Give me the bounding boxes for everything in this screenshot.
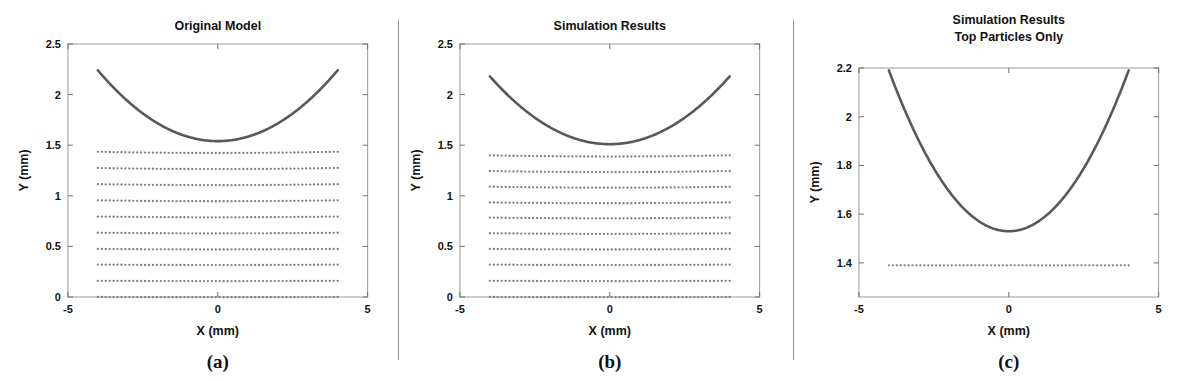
- particle-dot: [555, 186, 557, 188]
- particle-dot: [720, 186, 722, 188]
- particle-dot: [712, 232, 714, 234]
- particle-dot: [230, 296, 232, 298]
- particle-dot: [681, 280, 683, 282]
- particle-dot: [520, 202, 522, 204]
- particle-dot: [900, 264, 902, 266]
- particle-dot: [242, 280, 244, 282]
- particle-dot: [657, 280, 659, 282]
- particle-dot: [673, 186, 675, 188]
- particle-dot: [915, 264, 917, 266]
- particle-dot: [716, 154, 718, 156]
- particle-dot: [536, 171, 538, 173]
- particle-dot: [708, 280, 710, 282]
- particle-dot: [258, 152, 260, 154]
- particle-dot: [587, 280, 589, 282]
- particle-dot: [555, 202, 557, 204]
- particle-dot: [321, 296, 323, 298]
- particle-dot: [175, 168, 177, 170]
- particle-dot: [634, 186, 636, 188]
- particle-dot: [136, 167, 138, 169]
- particle-dot: [708, 264, 710, 266]
- particle-dot: [262, 296, 264, 298]
- particle-dot: [642, 296, 644, 298]
- particle-dot: [337, 232, 339, 234]
- particle-dot: [697, 186, 699, 188]
- particle-dot: [109, 296, 111, 298]
- particle-dot: [317, 232, 319, 234]
- particle-dot: [512, 280, 514, 282]
- particle-dot: [677, 186, 679, 188]
- particle-dot: [693, 248, 695, 250]
- particle-dot: [171, 296, 173, 298]
- particle-dot: [689, 296, 691, 298]
- particle-dot: [543, 186, 545, 188]
- particle-dot: [136, 248, 138, 250]
- particle-dot: [124, 280, 126, 282]
- particle-dot: [579, 217, 581, 219]
- particle-dot: [325, 199, 327, 201]
- particle-dot: [591, 264, 593, 266]
- particle-dot: [128, 167, 130, 169]
- particle-dot: [226, 296, 228, 298]
- particle-dot: [1069, 264, 1071, 266]
- particle-dot: [657, 171, 659, 173]
- particle-dot: [539, 186, 541, 188]
- particle-dot: [591, 248, 593, 250]
- particle-dot: [583, 264, 585, 266]
- particle-dot: [547, 202, 549, 204]
- particle-dot: [724, 296, 726, 298]
- particle-dot: [669, 155, 671, 157]
- particle-dot: [669, 264, 671, 266]
- particle-dot: [724, 232, 726, 234]
- particle-dot: [317, 280, 319, 282]
- particle-dot: [500, 186, 502, 188]
- particle-dot: [673, 248, 675, 250]
- particle-dot: [112, 151, 114, 153]
- particle-bed: [97, 151, 339, 299]
- y-tick-label: 2.5: [437, 38, 452, 50]
- particle-dot: [646, 248, 648, 250]
- particle-dot: [1088, 264, 1090, 266]
- particle-dot: [689, 155, 691, 157]
- particle-dot: [642, 155, 644, 157]
- particle-dot: [285, 151, 287, 153]
- particle-dot: [333, 263, 335, 265]
- particle-dot: [606, 171, 608, 173]
- particle-dot: [705, 217, 707, 219]
- particle-dot: [148, 296, 150, 298]
- particle-dot: [109, 151, 111, 153]
- particle-dot: [167, 232, 169, 234]
- particle-dot: [598, 233, 600, 235]
- particle-dot: [152, 184, 154, 186]
- particle-dot: [289, 168, 291, 170]
- particle-dot: [136, 200, 138, 202]
- particle-dot: [594, 187, 596, 189]
- particle-dot: [649, 280, 651, 282]
- particle-dot: [685, 296, 687, 298]
- particle-dot: [532, 186, 534, 188]
- particle-dot: [148, 151, 150, 153]
- particle-dot: [258, 216, 260, 218]
- particle-dot: [594, 264, 596, 266]
- particle-dot: [136, 151, 138, 153]
- particle-dot: [555, 171, 557, 173]
- particle-dot: [673, 171, 675, 173]
- particle-dot: [152, 264, 154, 266]
- particle-dot: [246, 184, 248, 186]
- particle-dot: [998, 264, 1000, 266]
- x-axis-label: X (mm): [588, 324, 630, 338]
- particle-dot: [325, 248, 327, 250]
- particle-dot: [681, 233, 683, 235]
- particle-dot: [101, 151, 103, 153]
- particle-dot: [179, 296, 181, 298]
- particle-dot: [630, 296, 632, 298]
- particle-dot: [543, 155, 545, 157]
- particle-dot: [238, 168, 240, 170]
- particle-dot: [285, 216, 287, 218]
- particle-dot: [124, 296, 126, 298]
- particle-dot: [720, 154, 722, 156]
- particle-dot: [317, 151, 319, 153]
- particle-dot: [630, 217, 632, 219]
- particle-dot: [697, 280, 699, 282]
- particle-dot: [705, 232, 707, 234]
